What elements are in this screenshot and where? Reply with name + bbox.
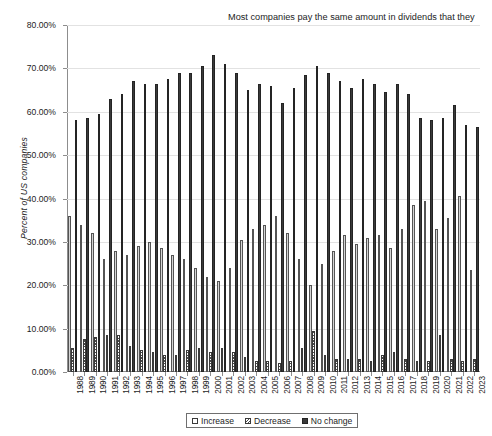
x-axis-label-1991: 1991 <box>111 376 120 394</box>
bar-group <box>126 25 135 372</box>
bar-nochange-2017 <box>407 94 410 372</box>
bar-group <box>68 25 77 372</box>
bar-nochange-2015 <box>384 92 387 372</box>
bar-nochange-2009 <box>316 66 319 372</box>
bar-increase-2013 <box>355 244 358 372</box>
bar-nochange-1997 <box>178 73 181 372</box>
bar-increase-2023 <box>470 270 473 372</box>
bar-nochange-2003 <box>247 90 250 372</box>
bar-group <box>412 25 421 372</box>
bar-group <box>321 25 330 372</box>
bar-decrease-2014 <box>370 361 373 372</box>
y-axis-tick-label: 80.00% <box>27 20 56 30</box>
bar-increase-2022 <box>458 196 461 372</box>
bar-increase-2007 <box>286 233 289 372</box>
bar-nochange-2018 <box>419 118 422 372</box>
y-axis-tick <box>63 242 67 243</box>
bar-nochange-2005 <box>270 86 273 372</box>
x-axis-label-1997: 1997 <box>179 376 188 394</box>
bar-group <box>80 25 89 372</box>
bar-increase-2009 <box>309 285 312 372</box>
bar-decrease-2016 <box>393 352 396 372</box>
x-axis-label-2019: 2019 <box>432 376 441 394</box>
x-axis-label-2007: 2007 <box>294 376 303 394</box>
bar-decrease-2013 <box>358 359 361 372</box>
x-axis-label-1992: 1992 <box>122 376 131 394</box>
y-axis-tick-label: 60.00% <box>27 107 56 117</box>
bar-decrease-2012 <box>347 359 350 372</box>
x-axis-label-2018: 2018 <box>420 376 429 394</box>
y-axis-tick-label: 20.00% <box>27 280 56 290</box>
bar-decrease-1989 <box>83 339 86 372</box>
bar-increase-1996 <box>160 248 163 372</box>
bar-increase-2016 <box>389 248 392 372</box>
bar-increase-1994 <box>137 246 140 372</box>
bar-decrease-2019 <box>427 361 430 372</box>
bar-increase-2015 <box>378 235 381 372</box>
bar-decrease-1991 <box>106 335 109 372</box>
legend-item-no-change[interactable]: No change <box>302 416 353 426</box>
bar-decrease-1999 <box>198 348 201 372</box>
bar-group <box>160 25 169 372</box>
bar-nochange-1991 <box>109 99 112 372</box>
plot-area <box>67 25 480 372</box>
bar-group <box>366 25 375 372</box>
x-axis-label-1989: 1989 <box>88 376 97 394</box>
bar-decrease-1992 <box>117 335 120 372</box>
bar-increase-1992 <box>114 251 117 372</box>
legend-item-increase[interactable]: Increase <box>192 416 234 426</box>
bar-increase-2000 <box>206 277 209 372</box>
x-axis-label-2005: 2005 <box>271 376 280 394</box>
bar-decrease-1993 <box>129 346 132 372</box>
bar-decrease-1988 <box>71 348 74 372</box>
bar-increase-2010 <box>321 264 324 372</box>
legend-item-decrease[interactable]: Decrease <box>245 416 291 426</box>
x-axis-tick <box>73 372 74 376</box>
bar-increase-2004 <box>252 229 255 372</box>
legend-swatch-increase-icon <box>192 418 198 424</box>
y-axis-tick <box>63 372 67 373</box>
bar-decrease-2020 <box>439 335 442 372</box>
bar-group <box>229 25 238 372</box>
bar-nochange-1989 <box>86 118 89 372</box>
bar-decrease-2022 <box>461 361 464 372</box>
x-axis-label-2006: 2006 <box>283 376 292 394</box>
bar-group <box>343 25 352 372</box>
x-axis-label-2003: 2003 <box>248 376 257 394</box>
bar-group <box>263 25 272 372</box>
x-axis-label-2002: 2002 <box>237 376 246 394</box>
x-axis-label-2023: 2023 <box>478 376 487 394</box>
bar-nochange-1992 <box>121 94 124 372</box>
x-axis-label-2000: 2000 <box>214 376 223 394</box>
bar-increase-2011 <box>332 251 335 372</box>
bar-nochange-2013 <box>362 79 365 372</box>
bar-nochange-2007 <box>293 88 296 372</box>
bar-increase-2005 <box>263 225 266 372</box>
bar-increase-1988 <box>68 216 71 372</box>
x-axis-label-2016: 2016 <box>397 376 406 394</box>
x-axis-label-2020: 2020 <box>443 376 452 394</box>
bar-group <box>148 25 157 372</box>
bar-nochange-2022 <box>465 125 468 372</box>
y-axis-tick-label: 50.00% <box>27 150 56 160</box>
bar-group <box>137 25 146 372</box>
bar-increase-1991 <box>103 259 106 372</box>
bar-group <box>206 25 215 372</box>
bar-decrease-2015 <box>381 355 384 372</box>
bar-decrease-2017 <box>404 359 407 372</box>
bar-decrease-2001 <box>221 348 224 372</box>
y-axis-tick-label: 70.00% <box>27 63 56 73</box>
bar-group <box>298 25 307 372</box>
y-axis-tick <box>63 155 67 156</box>
bar-decrease-2006 <box>278 363 281 372</box>
x-axis-label-1994: 1994 <box>145 376 154 394</box>
bar-group <box>171 25 180 372</box>
bar-decrease-1996 <box>163 355 166 372</box>
x-axis-label-2012: 2012 <box>351 376 360 394</box>
x-axis-label-1993: 1993 <box>133 376 142 394</box>
bar-increase-2018 <box>412 205 415 372</box>
bar-decrease-1997 <box>175 355 178 372</box>
bar-nochange-2002 <box>235 73 238 372</box>
bar-group <box>470 25 479 372</box>
bar-group <box>252 25 261 372</box>
